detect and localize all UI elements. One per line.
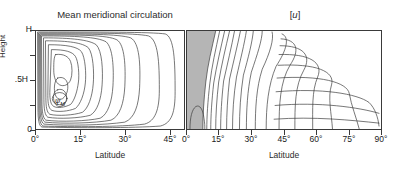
zonal-wind-contours [187, 31, 381, 129]
streamfunction-max-label: ψM [55, 96, 65, 107]
right-panel-title: [u] [250, 9, 340, 20]
y-tick-label-h: H [8, 24, 32, 34]
left-x-axis-title: Latitude [35, 150, 185, 160]
psi-subscript: M [60, 101, 65, 107]
right-plot-area [186, 30, 382, 130]
y-axis-label: Height [0, 35, 7, 58]
x-tick-label-right-60: 60° [303, 134, 329, 144]
x-tick-label-left-0: 0° [22, 134, 48, 144]
x-tick-label-right-15: 15° [205, 134, 231, 144]
x-tick-label-left-15: 15° [67, 134, 93, 144]
y-tick-label-half-h: .5H [4, 74, 28, 84]
x-tick-label-right-75: 75° [336, 134, 362, 144]
y-tick-label-zero: 0 [8, 124, 32, 134]
x-tick-label-right-30: 30° [238, 134, 264, 144]
x-tick-label-right-90: 90° [368, 134, 394, 144]
right-x-axis-title: Latitude [186, 150, 382, 160]
x-tick-label-right-45: 45° [271, 134, 297, 144]
x-tick-label-left-30: 30° [112, 134, 138, 144]
left-panel-title: Mean meridional circulation [40, 9, 190, 20]
left-plot-area: ψM [35, 30, 185, 130]
x-tick-label-right-0: 0° [173, 134, 199, 144]
streamfunction-contours [36, 31, 184, 129]
bracket-close: ] [298, 9, 301, 20]
figure-container: Mean meridional circulation [u] Height H… [0, 0, 418, 171]
